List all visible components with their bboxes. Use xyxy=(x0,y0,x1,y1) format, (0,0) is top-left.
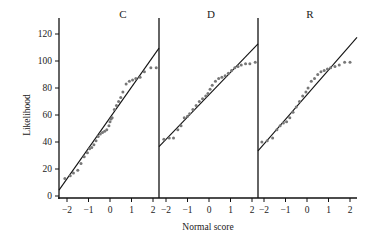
x-tick-label: −2 xyxy=(259,205,269,215)
x-tick-label: 1 xyxy=(129,205,134,215)
data-point xyxy=(149,66,152,69)
data-point xyxy=(204,95,207,98)
data-point xyxy=(76,169,79,172)
data-point xyxy=(237,65,240,68)
y-tick-label: 80 xyxy=(43,83,53,93)
data-point xyxy=(313,77,316,80)
data-point xyxy=(117,100,120,103)
panel-title-d: D xyxy=(207,8,215,20)
data-point xyxy=(121,91,124,94)
data-point xyxy=(191,108,194,111)
data-point xyxy=(211,84,214,87)
data-point xyxy=(72,172,75,175)
data-point xyxy=(260,141,263,144)
y-tick-label: 0 xyxy=(47,191,52,201)
data-point xyxy=(292,111,295,114)
data-point xyxy=(338,64,341,67)
data-point xyxy=(285,120,288,123)
y-tick-label: 60 xyxy=(43,110,53,120)
data-point xyxy=(92,143,95,146)
data-point xyxy=(298,100,301,103)
x-tick-label: 2 xyxy=(250,205,255,215)
data-point xyxy=(271,136,274,139)
data-point xyxy=(319,70,322,73)
x-tick-label: 1 xyxy=(228,205,233,215)
data-point xyxy=(186,115,189,118)
x-tick-label: −2 xyxy=(161,205,171,215)
data-point xyxy=(128,80,131,83)
data-point xyxy=(107,124,110,127)
data-point xyxy=(288,116,291,119)
data-point xyxy=(172,136,175,139)
data-point xyxy=(279,124,282,127)
data-point xyxy=(349,61,352,64)
data-point xyxy=(180,124,183,127)
x-tick-label: 2 xyxy=(151,205,156,215)
data-point xyxy=(224,74,227,77)
data-point xyxy=(343,61,346,64)
x-axis-label: Normal score xyxy=(182,222,233,232)
data-point xyxy=(139,76,142,79)
data-point xyxy=(105,128,108,131)
data-point xyxy=(329,66,332,69)
data-point xyxy=(115,104,118,107)
data-point xyxy=(183,116,186,119)
x-tick-label: −1 xyxy=(83,205,93,215)
data-point xyxy=(113,108,116,111)
x-tick-label: −2 xyxy=(62,205,72,215)
data-point xyxy=(97,135,100,138)
data-point xyxy=(209,88,212,91)
fit-lines xyxy=(59,37,357,190)
data-point xyxy=(195,104,198,107)
data-point xyxy=(240,64,243,67)
data-point xyxy=(233,66,236,69)
x-tick-label: −1 xyxy=(280,205,290,215)
data-point xyxy=(134,77,137,80)
x-tick-label: 1 xyxy=(326,205,331,215)
data-point xyxy=(168,136,171,139)
data-point xyxy=(198,100,201,103)
data-point xyxy=(125,82,128,85)
data-point xyxy=(304,91,307,94)
x-tick-label: 2 xyxy=(348,205,353,215)
data-points xyxy=(63,61,351,180)
data-point xyxy=(201,97,204,100)
data-point xyxy=(316,73,319,76)
data-point xyxy=(69,174,72,177)
data-point xyxy=(143,70,146,73)
data-point xyxy=(86,151,89,154)
data-point xyxy=(83,155,86,158)
data-point xyxy=(206,92,209,95)
panel-title-c: C xyxy=(119,8,126,20)
data-point xyxy=(90,146,93,149)
data-point xyxy=(227,72,230,75)
x-tick-label: −1 xyxy=(182,205,192,215)
qq-plot-chart: 020406080100120−2−1012−2−1012−2−1012 C D… xyxy=(0,0,376,239)
data-point xyxy=(248,62,251,65)
x-tick-label: 0 xyxy=(207,205,212,215)
data-point xyxy=(217,77,220,80)
data-point xyxy=(275,128,278,131)
data-point xyxy=(109,120,112,123)
data-point xyxy=(155,66,158,69)
data-point xyxy=(333,65,336,68)
axes: 020406080100120−2−1012−2−1012−2−1012 xyxy=(38,18,357,215)
y-axis-label: Likelihood xyxy=(22,94,32,136)
y-tick-label: 120 xyxy=(38,29,53,39)
data-point xyxy=(326,68,329,71)
data-point xyxy=(230,69,233,72)
x-tick-label: 0 xyxy=(108,205,113,215)
fit-line-d xyxy=(159,44,258,147)
y-tick-label: 40 xyxy=(43,137,53,147)
data-point xyxy=(295,105,298,108)
data-point xyxy=(79,162,82,165)
data-point xyxy=(131,78,134,81)
y-tick-label: 20 xyxy=(43,164,53,174)
data-point xyxy=(220,76,223,79)
data-point xyxy=(176,128,179,131)
y-tick-label: 100 xyxy=(38,56,53,66)
data-point xyxy=(214,80,217,83)
data-point xyxy=(162,138,165,141)
data-point xyxy=(244,62,247,65)
data-point xyxy=(119,96,122,99)
